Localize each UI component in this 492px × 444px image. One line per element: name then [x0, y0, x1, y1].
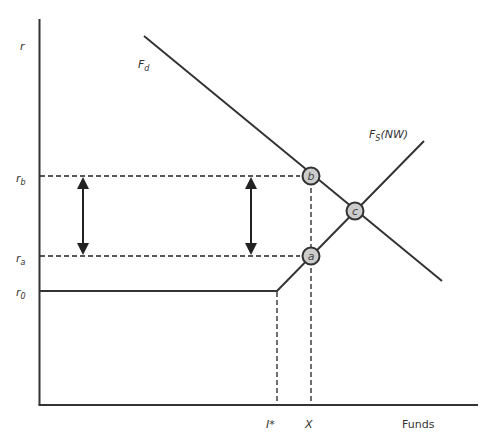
point-b: b [303, 168, 320, 185]
svg-text:b: b [308, 170, 315, 183]
svg-text:a: a [308, 250, 315, 263]
rb-label: rb [16, 172, 26, 187]
double-arrow-left [77, 177, 89, 255]
ra-label: ra [16, 252, 26, 267]
funds-market-diagram: b a c r Funds rb ra r0 I* X Fd FS(NW) [0, 0, 492, 444]
x-label: X [304, 418, 313, 431]
r0-label: r0 [16, 286, 26, 301]
point-a: a [303, 248, 320, 265]
x-axis-label: Funds [402, 418, 435, 431]
supply-curve-label: FS(NW) [369, 128, 408, 143]
supply-curve [40, 141, 424, 291]
istar-label: I* [266, 418, 275, 431]
point-c: c [347, 203, 364, 220]
double-arrow-right [245, 177, 257, 255]
demand-curve-label: Fd [138, 58, 150, 73]
demand-curve [144, 36, 442, 281]
svg-text:c: c [352, 205, 358, 218]
y-axis-label: r [20, 40, 26, 53]
